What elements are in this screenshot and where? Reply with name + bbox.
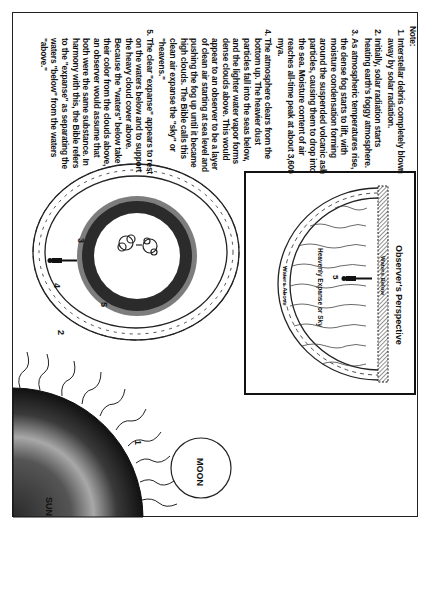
sun-label: SUN [44,497,54,516]
sun: SUN 1 [13,352,177,517]
observer-perspective-panel: Waters Above Heavenly Expanse or Sky 5 W… [245,172,415,394]
earth-atmosphere: 3 4 5 2 [33,164,239,340]
waters-above-label: Waters Above [282,266,288,306]
step-label-5: 5 [99,302,109,307]
step-label-5-panel: 5 [331,275,340,280]
note-item: Initially, solar radiation starts heatin… [362,38,383,176]
note-item: As atmospheric temperatures rise, the de… [275,38,360,176]
waters-below-label: Waters Below [380,256,386,295]
observer-perspective-title: Observer's Perspective [394,245,404,345]
earth-core [94,213,180,299]
note-item: The atmosphere clears from the bottom up… [157,38,274,176]
step-label-3: 3 [76,238,86,243]
note-item: Interstellar debris completely blown awa… [385,38,406,176]
step-label-1: 1 [133,440,143,445]
moon-label: MOON [195,458,205,486]
moon: MOON [171,438,231,498]
notes-panel: Note: Interstellar debris completely blo… [23,26,418,176]
step-label-4: 4 [52,283,62,288]
expanse-label: Heavenly Expanse or Sky [316,248,324,327]
step-label-2: 2 [56,330,66,335]
notes-list: Interstellar debris completely blown awa… [38,26,406,176]
note-item: The clear "expanse" appears to rest on t… [38,38,155,176]
notes-header: Note: [407,26,418,176]
